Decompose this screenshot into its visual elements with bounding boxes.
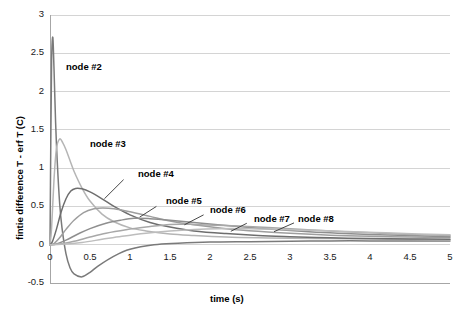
series-line-node-2: [50, 37, 450, 277]
axis-frame-group: [50, 15, 450, 283]
chart-container: -0.500.511.522.53 00.511.522.533.544.55 …: [0, 0, 466, 315]
x-tick-label: 4: [350, 251, 390, 262]
x-tick-label: 2: [190, 251, 230, 262]
leader-line-node-4: [104, 180, 123, 199]
x-tick-label: 5: [430, 251, 466, 262]
chart-plot-area: [0, 0, 466, 315]
series-label-node-4: node #4: [138, 168, 174, 179]
x-tick-label: 3: [270, 251, 310, 262]
y-tick-label: 0.5: [6, 199, 44, 210]
y-tick-label: 1.5: [6, 123, 44, 134]
y-tick-label: 2.5: [6, 46, 44, 57]
series-label-node-5: node #5: [166, 195, 202, 206]
y-tick-label: 3: [6, 8, 44, 19]
y-tick-label: 2: [6, 85, 44, 96]
x-tick-label: 4.5: [390, 251, 430, 262]
x-axis-title: time (s): [210, 293, 244, 304]
series-lines-group: [50, 37, 450, 277]
x-tick-label: 1: [110, 251, 150, 262]
series-label-node-3: node #3: [90, 138, 126, 149]
x-tick-label: 3.5: [310, 251, 350, 262]
y-tick-label: 0: [6, 238, 44, 249]
y-tick-label: 1: [6, 161, 44, 172]
x-tick-label: 1.5: [150, 251, 190, 262]
y-tick-label: -0.5: [6, 276, 44, 287]
series-label-node-7: node #7: [254, 213, 290, 224]
x-tick-label: 0.5: [70, 251, 110, 262]
series-label-node-2: node #2: [66, 61, 102, 72]
x-tick-label: 0: [30, 251, 70, 262]
y-axis-title: fintie difference T - erf T (C): [14, 116, 25, 240]
series-label-node-6: node #6: [210, 204, 246, 215]
x-tick-label: 2.5: [230, 251, 270, 262]
series-label-node-8: node #8: [298, 213, 334, 224]
gridlines-group: [50, 15, 450, 283]
